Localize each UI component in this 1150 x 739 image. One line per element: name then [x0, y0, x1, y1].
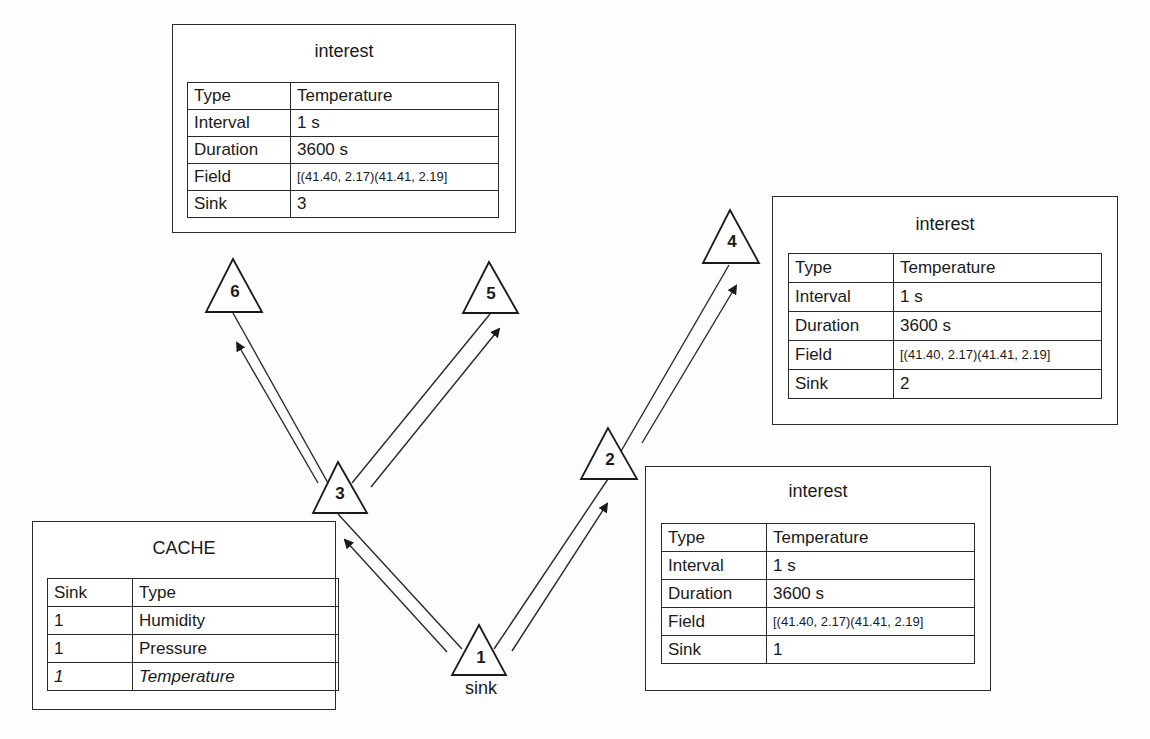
table-row: Field[(41.40, 2.17)(41.41, 2.19]: [789, 341, 1102, 370]
row-value: 3600 s: [767, 580, 975, 608]
cache-sink: 1: [48, 635, 133, 663]
edge-1-3-arrow: [345, 540, 447, 652]
cache-type: Temperature: [133, 663, 339, 691]
table-row: 1Humidity: [48, 607, 339, 635]
row-key: Duration: [188, 137, 291, 164]
interest-table: TypeTemperature Interval1 s Duration3600…: [788, 253, 1102, 399]
edge-2-4-arrow: [642, 286, 736, 443]
table-row: Field[(41.40, 2.17)(41.41, 2.19]: [188, 164, 499, 191]
table-row: TypeTemperature: [789, 254, 1102, 283]
row-value: Temperature: [291, 83, 499, 110]
table-row: TypeTemperature: [662, 524, 975, 552]
row-key: Duration: [789, 312, 894, 341]
cache-sink: 1: [48, 663, 133, 691]
row-key: Type: [789, 254, 894, 283]
table-row: Interval1 s: [789, 283, 1102, 312]
row-key: Field: [188, 164, 291, 191]
node-6-label: 6: [220, 282, 250, 302]
interest-box-node-3: interest TypeTemperature Interval1 s Dur…: [172, 24, 516, 233]
cache-sink: 1: [48, 607, 133, 635]
interest-box-node-2: interest TypeTemperature Interval1 s Dur…: [645, 466, 991, 691]
edge-1-3-line: [338, 514, 462, 649]
cache-title: CACHE: [33, 538, 335, 559]
row-value: 2: [894, 370, 1102, 399]
cache-header-type: Type: [133, 579, 339, 607]
node-5-label: 5: [476, 284, 506, 304]
table-row: Duration3600 s: [789, 312, 1102, 341]
interest-title: interest: [773, 214, 1117, 235]
row-value: 1 s: [894, 283, 1102, 312]
row-key: Duration: [662, 580, 767, 608]
interest-table: TypeTemperature Interval1 s Duration3600…: [187, 82, 499, 218]
interest-table: TypeTemperature Interval1 s Duration3600…: [661, 523, 975, 664]
row-value: 1 s: [767, 552, 975, 580]
interest-box-node-4: interest TypeTemperature Interval1 s Dur…: [772, 196, 1118, 425]
edge-2-4-line: [620, 265, 729, 453]
node-2-label: 2: [595, 450, 625, 470]
edge-1-2-line: [494, 479, 608, 649]
edge-3-5-arrow: [371, 329, 499, 487]
row-key: Type: [662, 524, 767, 552]
edge-1-2-arrow: [512, 504, 607, 651]
row-value: 3600 s: [291, 137, 499, 164]
cache-table: SinkType 1Humidity 1Pressure 1Temperatur…: [47, 578, 339, 691]
row-value: 1 s: [291, 110, 499, 137]
edge-3-6-arrow: [237, 343, 318, 483]
row-key: Sink: [789, 370, 894, 399]
row-key: Type: [188, 83, 291, 110]
diagram-canvas: 6 5 4 2 3 1 sink interest TypeTemperatur…: [0, 0, 1150, 739]
table-row: 1Temperature: [48, 663, 339, 691]
interest-title: interest: [173, 41, 515, 62]
row-key: Interval: [188, 110, 291, 137]
table-row: Duration3600 s: [188, 137, 499, 164]
table-row: Sink3: [188, 191, 499, 218]
table-row: Duration3600 s: [662, 580, 975, 608]
edge-3-6-line: [233, 313, 328, 483]
row-key: Sink: [662, 636, 767, 664]
edge-3-5-line: [352, 314, 490, 483]
node-1-label: 1: [466, 648, 496, 668]
table-row: 1Pressure: [48, 635, 339, 663]
node-3-label: 3: [325, 484, 355, 504]
node-4-label: 4: [717, 232, 747, 252]
table-row: Interval1 s: [188, 110, 499, 137]
sink-label: sink: [465, 678, 497, 699]
row-key: Interval: [662, 552, 767, 580]
cache-type: Humidity: [133, 607, 339, 635]
row-value: 1: [767, 636, 975, 664]
row-value: Temperature: [894, 254, 1102, 283]
row-value: [(41.40, 2.17)(41.41, 2.19]: [894, 341, 1102, 370]
row-value: 3600 s: [894, 312, 1102, 341]
row-value: Temperature: [767, 524, 975, 552]
table-row: Interval1 s: [662, 552, 975, 580]
table-row: TypeTemperature: [188, 83, 499, 110]
interest-title: interest: [646, 481, 990, 502]
row-key: Sink: [188, 191, 291, 218]
cache-type: Pressure: [133, 635, 339, 663]
row-value: [(41.40, 2.17)(41.41, 2.19]: [291, 164, 499, 191]
table-row: Sink2: [789, 370, 1102, 399]
row-value: [(41.40, 2.17)(41.41, 2.19]: [767, 608, 975, 636]
table-row: Field[(41.40, 2.17)(41.41, 2.19]: [662, 608, 975, 636]
row-key: Field: [662, 608, 767, 636]
cache-box-node-3: CACHE SinkType 1Humidity 1Pressure 1Temp…: [32, 521, 336, 710]
table-row: SinkType: [48, 579, 339, 607]
row-key: Field: [789, 341, 894, 370]
row-value: 3: [291, 191, 499, 218]
table-row: Sink1: [662, 636, 975, 664]
cache-header-sink: Sink: [48, 579, 133, 607]
row-key: Interval: [789, 283, 894, 312]
